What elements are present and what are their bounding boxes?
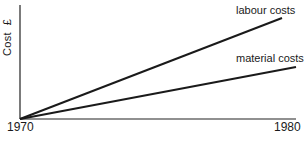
material-costs-line [20, 67, 296, 119]
material-costs-label: material costs [236, 52, 304, 64]
pound-currency-symbol: £ [1, 19, 13, 25]
y-axis-label: Cost£ [1, 19, 13, 56]
y-axis-label-text: Cost [1, 32, 13, 56]
labour-costs-line [20, 18, 282, 119]
x-tick-label-start: 1970 [7, 121, 34, 134]
line-chart [0, 0, 308, 141]
labour-costs-label: labour costs [236, 4, 295, 16]
x-tick-label-end: 1980 [274, 121, 301, 134]
